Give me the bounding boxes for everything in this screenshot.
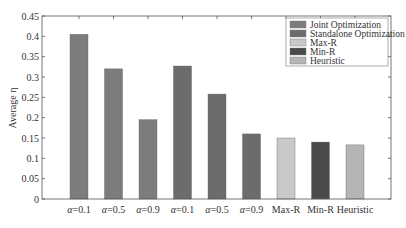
bar bbox=[105, 69, 123, 199]
y-tick-label: 0.45 bbox=[22, 11, 40, 22]
legend-swatch bbox=[290, 48, 306, 55]
y-tick-label: 0.05 bbox=[22, 173, 40, 184]
legend-swatch bbox=[290, 39, 306, 46]
x-tick-label: α=0.9 bbox=[136, 204, 159, 215]
y-tick-label: 0 bbox=[34, 194, 39, 205]
x-tick-label: α=0.5 bbox=[205, 204, 228, 215]
y-tick-label: 0.35 bbox=[22, 51, 40, 62]
bar bbox=[208, 94, 226, 199]
legend: Joint OptimizationStandalone Optimizatio… bbox=[286, 18, 405, 66]
legend-swatch bbox=[290, 30, 306, 37]
y-tick-label: 0.2 bbox=[27, 112, 40, 123]
legend-swatch bbox=[290, 21, 306, 28]
legend-label: Heuristic bbox=[310, 56, 345, 66]
y-tick-label: 0.25 bbox=[22, 92, 40, 103]
bar bbox=[70, 34, 88, 199]
bar bbox=[346, 145, 364, 199]
x-tick-label: α=0.5 bbox=[102, 204, 125, 215]
x-tick-label: α=0.1 bbox=[67, 204, 90, 215]
bar bbox=[277, 138, 295, 199]
y-tick-label: 0.3 bbox=[27, 72, 40, 83]
bar-chart: 00.050.10.150.20.250.30.350.40.45 α=0.1α… bbox=[0, 0, 406, 228]
bar bbox=[139, 120, 157, 199]
x-tick-label: Min-R bbox=[307, 204, 334, 215]
x-tick-label: α=0.9 bbox=[240, 204, 263, 215]
legend-swatch bbox=[290, 57, 306, 64]
x-tick-label: α=0.1 bbox=[171, 204, 194, 215]
y-tick-label: 0.1 bbox=[27, 153, 40, 164]
x-tick-label: Heuristic bbox=[337, 204, 374, 215]
bar bbox=[174, 66, 192, 199]
y-tick-label: 0.4 bbox=[27, 31, 40, 42]
x-tick-label: Max-R bbox=[272, 204, 301, 215]
y-axis-label: Average η bbox=[7, 88, 18, 129]
y-tick-label: 0.15 bbox=[22, 133, 40, 144]
bar bbox=[243, 134, 261, 199]
bar bbox=[312, 142, 330, 199]
